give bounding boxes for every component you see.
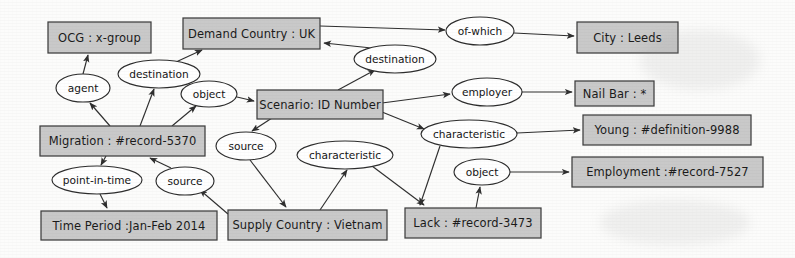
edge-supply-to-charac2 <box>320 170 347 210</box>
entity-node-city[interactable]: City : Leeds <box>577 22 678 53</box>
entity-node-ocg[interactable]: OCG : x-group <box>48 22 151 53</box>
entity-label-demand: Demand Country : UK <box>188 27 316 41</box>
relation-label-source2: source <box>167 175 202 187</box>
edge-ofwhich-to-city <box>514 33 574 36</box>
edge-object1-to-scenario <box>237 97 254 101</box>
entity-node-scenario[interactable]: Scenario: ID Number <box>257 90 383 119</box>
relation-label-dest1: destination <box>129 68 188 80</box>
relation-label-object2: object <box>466 166 499 178</box>
entity-label-migration: Migration : #record-5370 <box>49 134 197 148</box>
relation-label-employer: employer <box>462 86 513 98</box>
edge-agent-to-ocg <box>83 55 88 74</box>
entity-node-supply[interactable]: Supply Country : Vietnam <box>228 210 387 240</box>
relation-node-charac1[interactable]: characteristic <box>421 120 517 148</box>
edge-charac2-to-lack <box>372 166 424 205</box>
relation-node-object1[interactable]: object <box>181 81 237 107</box>
relation-label-object1: object <box>193 88 226 100</box>
diagram-svg: OCG : x-groupDemand Country : UKCity : L… <box>0 0 795 258</box>
relation-label-agent: agent <box>68 82 99 94</box>
edge-migration-to-object1 <box>172 106 196 126</box>
relation-label-source1: source <box>228 140 263 152</box>
edge-migration-to-dest1 <box>140 89 154 126</box>
entity-label-nailbar: Nail Bar : * <box>583 87 647 101</box>
relation-node-charac2[interactable]: characteristic <box>297 141 393 169</box>
relation-label-charac2: characteristic <box>309 149 381 161</box>
relation-node-dest1[interactable]: destination <box>118 60 200 88</box>
relation-node-dest2[interactable]: destination <box>354 45 436 73</box>
edge-migration-to-agent <box>90 103 110 126</box>
entity-label-timeper: Time Period :Jan-Feb 2014 <box>52 219 206 233</box>
entity-node-migration[interactable]: Migration : #record-5370 <box>40 126 205 156</box>
entity-node-timeper[interactable]: Time Period :Jan-Feb 2014 <box>41 211 217 240</box>
edge-scenario-to-employer <box>382 94 450 103</box>
relation-node-agent[interactable]: agent <box>56 74 110 102</box>
edge-charac1-to-young <box>517 130 580 133</box>
entity-node-demand[interactable]: Demand Country : UK <box>183 18 320 49</box>
edge-migration-to-pit <box>101 156 106 165</box>
entity-label-supply: Supply Country : Vietnam <box>232 218 382 232</box>
relation-node-source1[interactable]: source <box>216 132 276 160</box>
edge-scenario-to-dest2 <box>338 70 375 90</box>
edge-source1-to-supply <box>250 160 286 207</box>
edge-charac1-to-lack <box>420 146 440 205</box>
entity-label-employ: Employment :#record-7527 <box>586 165 749 179</box>
entity-label-scenario: Scenario: ID Number <box>259 98 381 112</box>
edge-dest1-to-demand <box>176 50 202 62</box>
entity-node-nailbar[interactable]: Nail Bar : * <box>575 81 654 106</box>
edge-scenario-to-charac1 <box>382 112 424 129</box>
relation-label-pit: point-in-time <box>63 174 131 186</box>
edge-scenario-to-source1 <box>252 118 272 131</box>
relation-label-dest2: destination <box>365 53 424 65</box>
relation-node-ofwhich[interactable]: of-which <box>446 17 514 45</box>
entity-label-city: City : Leeds <box>593 31 662 45</box>
relation-node-object2[interactable]: object <box>454 159 510 185</box>
relation-node-employer[interactable]: employer <box>452 78 522 106</box>
relation-node-pit[interactable]: point-in-time <box>52 166 142 194</box>
relation-label-ofwhich: of-which <box>458 25 502 37</box>
edge-demand-to-ofwhich <box>320 26 445 30</box>
edge-lack-to-object2 <box>476 187 480 208</box>
edge-pit-to-timeper <box>100 194 107 208</box>
entity-label-young: Young : #definition-9988 <box>593 123 739 137</box>
relation-label-charac1: characteristic <box>433 128 505 140</box>
entity-node-young[interactable]: Young : #definition-9988 <box>583 115 751 145</box>
entity-label-ocg: OCG : x-group <box>58 31 141 45</box>
diagram-canvas: OCG : x-groupDemand Country : UKCity : L… <box>0 0 795 258</box>
relation-node-source2[interactable]: source <box>156 167 214 195</box>
entity-node-lack[interactable]: Lack : #record-3473 <box>405 208 541 238</box>
entity-node-employ[interactable]: Employment :#record-7527 <box>572 157 763 187</box>
entity-label-lack: Lack : #record-3473 <box>413 216 532 230</box>
edge-source2-to-migration <box>150 158 171 168</box>
